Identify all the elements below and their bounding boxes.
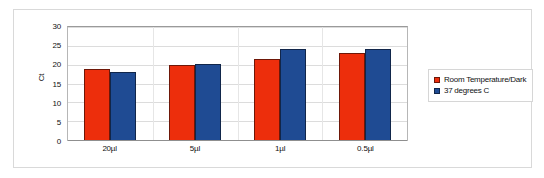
bar-37-degrees-c[interactable] <box>280 49 306 140</box>
bar-37-degrees-c[interactable] <box>195 64 221 140</box>
y-axis-title: Ct <box>37 74 46 82</box>
y-tick-label: 15 <box>53 79 62 88</box>
y-axis-ticks: 30 25 20 15 10 5 0 <box>34 26 64 141</box>
bar-room-temperature-dark[interactable] <box>169 65 195 140</box>
bar-room-temperature-dark[interactable] <box>84 69 110 140</box>
x-tick-label: 1µl <box>238 144 323 153</box>
legend-label: 37 degrees C <box>444 86 489 95</box>
legend-swatch-icon <box>434 77 440 83</box>
bar-group <box>322 27 407 140</box>
bar-group <box>153 27 238 140</box>
bar-37-degrees-c[interactable] <box>110 72 136 140</box>
y-tick-label: 5 <box>57 117 61 126</box>
plot-area-wrapper <box>67 26 408 141</box>
y-tick-label: 20 <box>53 60 62 69</box>
plot-area <box>67 26 408 141</box>
bar-group <box>238 27 323 140</box>
chart-container: 30 25 20 15 10 5 0 Ct <box>13 9 532 168</box>
bar-room-temperature-dark[interactable] <box>339 53 365 140</box>
bar-37-degrees-c[interactable] <box>365 49 391 140</box>
y-tick-label: 25 <box>53 41 62 50</box>
x-tick-label: 0.5µl <box>323 144 408 153</box>
legend-item[interactable]: Room Temperature/Dark <box>434 75 526 84</box>
legend-label: Room Temperature/Dark <box>444 75 526 84</box>
x-axis-labels: 20µl 5µl 1µl 0.5µl <box>67 144 408 153</box>
y-tick-label: 10 <box>53 98 62 107</box>
bars-layer <box>68 27 407 140</box>
bar-room-temperature-dark[interactable] <box>254 59 280 140</box>
chart-screenshot: 30 25 20 15 10 5 0 Ct <box>0 0 544 178</box>
legend-swatch-icon <box>434 88 440 94</box>
legend-item[interactable]: 37 degrees C <box>434 86 526 95</box>
chart-legend: Room Temperature/Dark 37 degrees C <box>428 69 533 102</box>
gridline-baseline <box>68 140 407 141</box>
y-tick-label: 30 <box>53 22 62 31</box>
bar-group <box>68 27 153 140</box>
x-tick-label: 20µl <box>67 144 152 153</box>
y-tick-label: 0 <box>57 137 61 146</box>
x-tick-label: 5µl <box>152 144 237 153</box>
